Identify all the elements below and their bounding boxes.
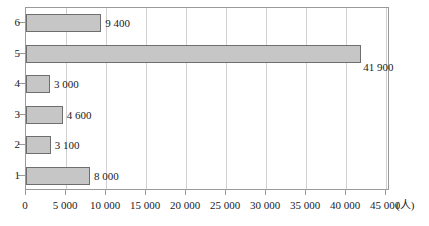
y-tick-label-6: 6 bbox=[0, 17, 20, 28]
gridline-30000 bbox=[266, 8, 267, 189]
x-tick-5000 bbox=[65, 190, 66, 195]
gridline-35000 bbox=[306, 8, 307, 189]
x-tick-label-35000: 35 000 bbox=[290, 199, 320, 211]
bar-row: 8 000 bbox=[26, 167, 390, 185]
x-tick-label-5000: 5 000 bbox=[53, 199, 78, 211]
plot-area: 8 0003 1004 6003 00041 9009 400 bbox=[25, 7, 389, 190]
x-tick-40000 bbox=[345, 190, 346, 195]
bar-value-label-2: 3 100 bbox=[51, 140, 80, 151]
gridline-20000 bbox=[186, 8, 187, 189]
y-tick-label-1: 1 bbox=[0, 169, 20, 180]
x-tick-15000 bbox=[145, 190, 146, 195]
bar-value-label-3: 4 600 bbox=[63, 109, 92, 120]
x-tick-20000 bbox=[185, 190, 186, 195]
x-tick-label-10000: 10 000 bbox=[90, 199, 120, 211]
x-tick-10000 bbox=[105, 190, 106, 195]
x-tick-label-25000: 25 000 bbox=[210, 199, 240, 211]
bar-6[interactable] bbox=[26, 14, 101, 32]
y-tick-label-2: 2 bbox=[0, 139, 20, 150]
gridline-5000 bbox=[66, 8, 67, 189]
bar-5[interactable] bbox=[26, 45, 361, 63]
bar-row: 3 000 bbox=[26, 75, 390, 93]
x-tick-label-40000: 40 000 bbox=[330, 199, 360, 211]
bar-row: 3 100 bbox=[26, 136, 390, 154]
gridline-45000 bbox=[386, 8, 387, 189]
bar-value-label-5: 41 900 bbox=[361, 62, 393, 73]
bar-chart: 8 0003 1004 6003 00041 9009 400 123456 0… bbox=[0, 0, 429, 226]
bar-row: 4 600 bbox=[26, 106, 390, 124]
gridline-10000 bbox=[106, 8, 107, 189]
x-axis-unit-label: (人) bbox=[396, 199, 414, 211]
bar-1[interactable] bbox=[26, 167, 90, 185]
gridline-15000 bbox=[146, 8, 147, 189]
bar-4[interactable] bbox=[26, 75, 50, 93]
y-tick-label-4: 4 bbox=[0, 78, 20, 89]
gridline-25000 bbox=[226, 8, 227, 189]
bar-2[interactable] bbox=[26, 136, 51, 154]
x-tick-25000 bbox=[225, 190, 226, 195]
x-tick-label-15000: 15 000 bbox=[130, 199, 160, 211]
gridline-40000 bbox=[346, 8, 347, 189]
bar-value-label-6: 9 400 bbox=[101, 18, 130, 29]
y-tick-label-5: 5 bbox=[0, 47, 20, 58]
x-tick-30000 bbox=[265, 190, 266, 195]
x-tick-label-30000: 30 000 bbox=[250, 199, 280, 211]
bar-value-label-1: 8 000 bbox=[90, 170, 119, 181]
x-tick-0 bbox=[25, 190, 26, 195]
bar-row: 9 400 bbox=[26, 14, 390, 32]
x-tick-label-0: 0 bbox=[22, 199, 28, 211]
bar-value-label-4: 3 000 bbox=[50, 79, 79, 90]
x-tick-35000 bbox=[305, 190, 306, 195]
y-tick-label-3: 3 bbox=[0, 108, 20, 119]
bar-3[interactable] bbox=[26, 106, 63, 124]
bar-row: 41 900 bbox=[26, 45, 390, 63]
x-tick-label-20000: 20 000 bbox=[170, 199, 200, 211]
x-tick-45000 bbox=[385, 190, 386, 195]
